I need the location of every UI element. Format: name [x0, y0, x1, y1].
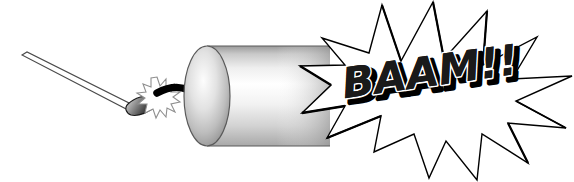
- clipart-svg: Lit match igniting a firecracker with BA…: [0, 0, 574, 182]
- cylinder-end-cap: [184, 46, 230, 146]
- matchstick-shape: [22, 52, 137, 112]
- illustration-canvas: Lit match igniting a firecracker with BA…: [0, 0, 574, 182]
- firecracker-body: [184, 46, 330, 146]
- matchstick: [22, 52, 137, 112]
